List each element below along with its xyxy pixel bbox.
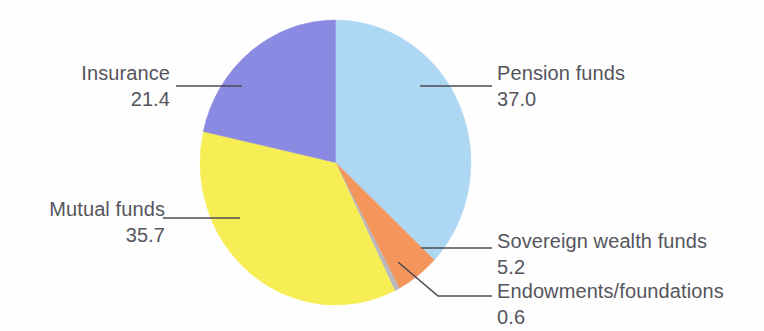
pie-label-sovereign-wealth-funds-name: Sovereign wealth funds <box>497 228 707 254</box>
pie-label-pension-funds-value: 37.0 <box>497 86 625 112</box>
pie-label-insurance: Insurance 21.4 <box>40 60 170 112</box>
pie-slice-group <box>200 20 471 305</box>
pie-label-insurance-value: 21.4 <box>40 86 170 112</box>
pie-chart-figure: Insurance 21.4 Mutual funds 35.7 Pension… <box>0 0 764 331</box>
pie-label-pension-funds: Pension funds 37.0 <box>497 60 625 112</box>
pie-label-endowments-foundations-name: Endowments/foundations <box>497 278 724 304</box>
pie-label-endowments-foundations-value: 0.6 <box>497 304 724 330</box>
pie-label-insurance-name: Insurance <box>40 60 170 86</box>
pie-label-endowments-foundations: Endowments/foundations 0.6 <box>497 278 724 330</box>
pie-label-pension-funds-name: Pension funds <box>497 60 625 86</box>
pie-label-sovereign-wealth-funds-value: 5.2 <box>497 254 707 280</box>
pie-label-mutual-funds-value: 35.7 <box>10 222 165 248</box>
pie-label-sovereign-wealth-funds: Sovereign wealth funds 5.2 <box>497 228 707 280</box>
pie-label-mutual-funds-name: Mutual funds <box>10 196 165 222</box>
pie-label-mutual-funds: Mutual funds 35.7 <box>10 196 165 248</box>
